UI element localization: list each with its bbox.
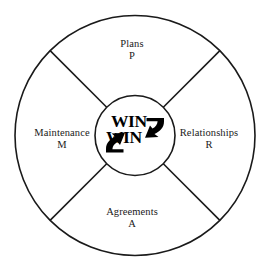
quadrant-name-agreements: Agreements xyxy=(0,206,264,218)
quadrant-name-maintenance: Maintenance xyxy=(22,127,102,139)
quadrant-letter-maintenance: M xyxy=(22,139,102,151)
quadrant-label-maintenance: Maintenance M xyxy=(22,127,102,152)
quadrant-letter-agreements: A xyxy=(0,218,264,230)
quadrant-name-relationships: Relationships xyxy=(166,127,252,139)
quadrant-letter-relationships: R xyxy=(166,139,252,151)
quadrant-letter-plans: P xyxy=(0,50,264,62)
win-win-wheel-diagram: Plans P Relationships R Agreements A Mai… xyxy=(0,0,264,275)
win-text-bottom: WIN xyxy=(106,129,142,147)
quadrant-name-plans: Plans xyxy=(0,38,264,50)
quadrant-label-plans: Plans P xyxy=(0,38,264,63)
quadrant-label-agreements: Agreements A xyxy=(0,206,264,231)
center-win-win-label: WIN WIN xyxy=(95,97,175,177)
quadrant-label-relationships: Relationships R xyxy=(166,127,252,152)
